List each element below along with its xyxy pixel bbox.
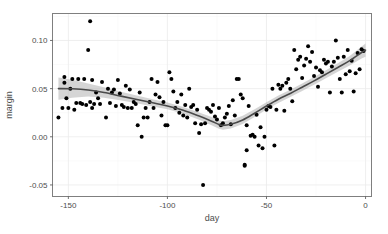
data-point — [233, 114, 237, 118]
data-point — [84, 103, 88, 107]
data-point — [354, 71, 358, 75]
data-point — [187, 87, 191, 91]
data-point — [292, 48, 296, 52]
data-point — [197, 131, 201, 135]
data-point — [201, 183, 205, 187]
data-point — [241, 96, 245, 100]
data-point — [344, 72, 348, 76]
data-point — [294, 67, 298, 71]
data-point — [280, 84, 284, 88]
data-point — [253, 135, 257, 139]
data-point — [340, 90, 344, 94]
data-point — [223, 116, 227, 120]
data-point — [100, 80, 104, 84]
data-point — [334, 38, 338, 42]
data-point — [88, 100, 92, 104]
data-point — [140, 135, 144, 139]
data-point — [338, 77, 342, 81]
data-point — [312, 74, 316, 78]
data-point — [64, 96, 68, 100]
data-point — [181, 114, 185, 118]
data-point — [247, 104, 251, 108]
data-point — [215, 117, 219, 121]
data-point — [157, 95, 161, 99]
data-point — [104, 116, 108, 120]
data-point — [284, 81, 288, 85]
data-point — [328, 90, 332, 94]
data-point — [270, 87, 274, 91]
data-point — [268, 105, 272, 109]
data-point — [76, 77, 80, 81]
data-point — [298, 55, 302, 59]
data-point — [245, 148, 249, 152]
data-point — [82, 77, 86, 81]
y-tick-label: 0.00 — [32, 133, 48, 142]
scatter-plot-chart: -150-100-500 -0.050.000.050.10 day margi… — [0, 0, 388, 234]
x-tick-label: -100 — [159, 201, 176, 210]
x-tick-label: -150 — [60, 201, 77, 210]
data-point — [122, 105, 126, 109]
y-tick-label: 0.05 — [32, 85, 48, 94]
data-point — [352, 90, 356, 94]
data-point — [142, 116, 146, 120]
data-point — [286, 77, 290, 81]
data-point — [225, 112, 229, 116]
data-point — [60, 106, 64, 110]
data-point — [112, 88, 116, 92]
data-point — [288, 87, 292, 91]
data-point — [316, 85, 320, 89]
data-point — [211, 103, 215, 107]
data-point — [98, 102, 102, 106]
data-point — [62, 81, 66, 85]
data-point — [310, 50, 314, 54]
data-point — [72, 108, 76, 112]
data-point — [272, 143, 276, 147]
data-point — [177, 111, 181, 115]
data-point — [330, 64, 334, 68]
data-point — [336, 56, 340, 60]
data-point — [86, 48, 90, 52]
data-point — [322, 58, 326, 62]
data-point — [239, 92, 243, 96]
data-point — [175, 100, 179, 104]
data-point — [227, 104, 231, 108]
data-point — [203, 121, 207, 125]
data-point — [326, 60, 330, 64]
data-point — [128, 88, 132, 92]
data-point — [144, 106, 148, 110]
data-point — [308, 60, 312, 64]
data-point — [154, 92, 158, 96]
data-point — [274, 108, 278, 112]
data-point — [263, 135, 267, 139]
data-point — [96, 96, 100, 100]
data-point — [134, 102, 138, 106]
data-point — [217, 106, 221, 110]
x-tick-label: 0 — [363, 201, 368, 210]
x-axis-ticks: -150-100-500 — [60, 197, 368, 211]
data-point — [314, 65, 318, 69]
data-point — [90, 106, 94, 110]
data-point — [290, 99, 294, 103]
y-tick-label: 0.10 — [32, 36, 48, 45]
data-point — [74, 101, 78, 105]
data-point — [199, 122, 203, 126]
data-point — [245, 123, 249, 127]
data-point — [261, 146, 265, 150]
data-point — [70, 77, 74, 81]
data-point — [358, 67, 362, 71]
data-point — [179, 92, 183, 96]
y-axis-ticks: -0.050.000.050.10 — [29, 36, 52, 189]
data-point — [150, 77, 154, 81]
data-point — [243, 164, 247, 168]
data-point — [126, 106, 130, 110]
data-point — [56, 116, 60, 120]
data-point — [171, 90, 175, 94]
data-point — [193, 121, 197, 125]
data-point — [306, 44, 310, 48]
data-point — [92, 102, 96, 106]
data-point — [88, 19, 92, 23]
data-point — [257, 143, 261, 147]
data-point — [152, 106, 156, 110]
data-point — [209, 110, 213, 114]
y-axis-title: margin — [4, 91, 14, 119]
